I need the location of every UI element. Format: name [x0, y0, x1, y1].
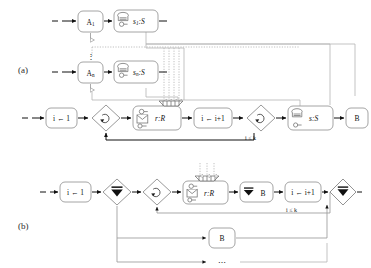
node-sn-label: sn:S — [133, 68, 145, 78]
node-an[interactable]: An — [52, 62, 103, 90]
node-loop-test-a[interactable]: i ≤ k — [245, 105, 275, 141]
recv-hopper-a — [159, 101, 183, 106]
send-envelope-icon — [118, 12, 129, 26]
node-recv-a-label: r:R — [155, 114, 165, 123]
node-b-branch-label: B — [219, 234, 224, 243]
branch-ellipsis: ⋯ — [218, 258, 226, 267]
node-recv-b[interactable]: r:R — [183, 181, 228, 204]
node-s1-send[interactable]: s1:S — [104, 10, 167, 32]
node-b-triangle-label: B — [260, 189, 265, 198]
node-sn-send[interactable]: sn:S — [104, 61, 167, 83]
node-b-a[interactable]: B — [346, 108, 368, 128]
node-loop-head-b[interactable] — [143, 179, 171, 205]
panel-b-label: (b) — [18, 221, 29, 231]
node-choice-1[interactable] — [103, 179, 131, 205]
node-init-a-label: i ← 1 — [53, 114, 70, 123]
node-incr-b[interactable]: i ← i+1 — [285, 182, 321, 202]
node-incr-b-label: i ← i+1 — [291, 188, 315, 197]
node-recv-a[interactable]: r:R — [133, 106, 181, 130]
panel-b-message-arrows — [200, 163, 214, 176]
panel-a-message-arrows — [164, 48, 179, 101]
node-incr-a-label: i ← i+1 — [201, 114, 225, 123]
panel-b-main-row: i ← 1 — [40, 163, 356, 213]
node-s1-label: s1:S — [133, 17, 145, 27]
node-recv-b-label: r:R — [204, 189, 214, 198]
figure-container: (a) (b) A1 — [0, 0, 371, 268]
panel-a-label: (a) — [18, 65, 28, 75]
agents-vertical-ellipsis: ⋮ — [87, 52, 95, 61]
node-choice-2-glyph[interactable] — [330, 179, 356, 205]
node-init-a[interactable]: i ← 1 — [46, 108, 77, 128]
node-incr-a[interactable]: i ← i+1 — [194, 108, 232, 128]
send-envelope-icon — [118, 63, 129, 77]
node-init-b[interactable]: i ← 1 — [60, 182, 91, 202]
node-send-a-label: s:S — [309, 114, 318, 123]
recv-hopper-b — [195, 176, 219, 181]
node-b-triangle[interactable]: B — [240, 182, 273, 202]
node-a1[interactable]: A1 — [52, 11, 103, 32]
panel-a-main-row: i ← 1 r:R — [22, 101, 368, 141]
flowchart-diagram: (a) (b) A1 — [0, 0, 371, 268]
node-loop-head-a[interactable] — [92, 105, 120, 131]
node-init-b-label: i ← 1 — [67, 188, 84, 197]
edge-label-i-le-k-b: i ≤ k — [286, 207, 297, 213]
node-b-a-label: B — [354, 114, 359, 123]
node-send-a[interactable]: s:S — [288, 106, 333, 130]
node-b-branch[interactable]: B — [209, 228, 235, 248]
